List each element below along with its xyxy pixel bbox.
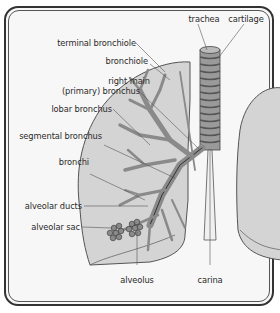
trachea-tube	[200, 47, 220, 151]
label-segmental-bronchus: segmental bronchus	[6, 131, 102, 141]
label-carina: carina	[190, 275, 230, 285]
label-terminal-bronchiole: terminal bronchiole	[40, 38, 136, 48]
label-alveolar-sac: alveolar sac	[10, 222, 80, 232]
label-bronchi: bronchi	[40, 157, 89, 167]
label-right-main-bronchus-line2: (primary) bronchus	[40, 86, 140, 96]
label-trachea: trachea	[185, 14, 223, 24]
label-cartilage: cartilage	[224, 14, 268, 24]
label-right-main-bronchus-line1: right main	[60, 76, 150, 86]
left-lung	[237, 88, 280, 260]
label-alveolar-ducts: alveolar ducts	[10, 201, 82, 211]
label-bronchiole: bronchiole	[80, 56, 148, 66]
label-lobar-bronchus: lobar bronchus	[30, 104, 112, 114]
label-alveolus: alveolus	[112, 275, 162, 285]
